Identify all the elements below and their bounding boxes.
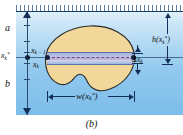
label-partition-prev: xk − 1 (31, 47, 46, 56)
width-arrow-left-icon (48, 94, 53, 100)
width-dimline-left (53, 96, 75, 97)
axis-tick-a (24, 25, 30, 26)
deltax-arrow-up-icon (135, 47, 141, 52)
height-dimline-top (167, 16, 168, 34)
label-height-function: h(xk*) (152, 36, 170, 45)
width-dimline-right (108, 96, 129, 97)
label-delta-x-var: Δx (132, 55, 140, 64)
axis-arrow-down-icon (23, 108, 31, 115)
label-partition-prev-sub: k − 1 (35, 49, 46, 55)
label-width-fn-close: ) (95, 91, 98, 101)
width-cap-right (134, 91, 135, 102)
label-sample-point-sup: * (7, 51, 10, 57)
axis-sample-dot (25, 55, 30, 60)
axis-arrow-up-icon (23, 11, 31, 18)
label-height-fn-var: h(x (152, 35, 162, 44)
figure-container: a b xk* xk − 1 xk Δxk h(xk*) w(xk*) (b) (0, 0, 183, 135)
label-depth-b: b (5, 79, 10, 89)
label-partition-curr: xk (33, 61, 39, 70)
label-partition-curr-sub: k (37, 63, 39, 69)
water-surface-line (16, 11, 183, 12)
figure-caption: (b) (0, 118, 183, 129)
axis-tick-xk (24, 63, 30, 64)
deltax-dimline-top (137, 45, 138, 52)
axis-tick-xk-1 (24, 52, 30, 53)
representative-strip (47, 52, 134, 65)
deltax-cap-top (132, 53, 143, 54)
label-width-function: w(xk*) (76, 92, 98, 102)
height-arrow-up-icon (165, 13, 171, 18)
axis-tick-upper (24, 41, 30, 42)
deltax-arrow-down-icon (135, 70, 141, 75)
axis-tick-b (24, 79, 30, 80)
label-delta-x-sub: k (140, 58, 142, 64)
label-height-fn-close: ) (167, 35, 170, 44)
label-width-fn-var: w(x (76, 91, 89, 101)
label-sample-point: xk* (1, 52, 10, 61)
strip-center-dashed-line (47, 57, 134, 58)
width-arrow-right-icon (129, 94, 134, 100)
label-depth-a: a (5, 23, 10, 33)
height-cap-bottom (162, 64, 173, 65)
label-delta-x: Δxk (132, 56, 143, 65)
strip-left-dot (45, 55, 50, 60)
